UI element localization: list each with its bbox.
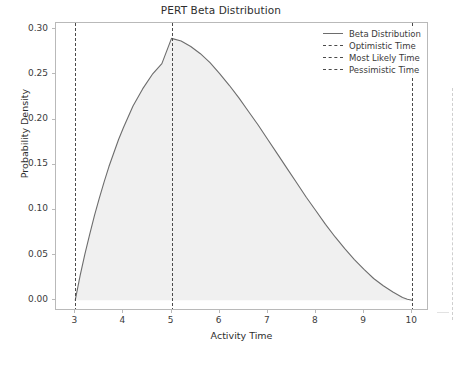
legend-item: Pessimistic Time xyxy=(322,64,426,75)
x-tick-label: 7 xyxy=(247,316,287,325)
x-tick-label: 5 xyxy=(151,316,191,325)
y-tick-label: 0.10 xyxy=(2,204,48,213)
legend-item-label: Pessimistic Time xyxy=(349,65,419,75)
chart-figure: PERT Beta Distribution Probability Densi… xyxy=(0,0,457,367)
x-tick-mark xyxy=(267,310,268,313)
x-tick-mark xyxy=(219,310,220,313)
x-tick-label: 9 xyxy=(343,316,383,325)
x-axis-label: Activity Time xyxy=(55,330,428,341)
y-tick-label: 0.15 xyxy=(2,159,48,168)
x-tick-label: 8 xyxy=(295,316,335,325)
legend-line-icon xyxy=(322,29,344,39)
y-axis-label: Probability Density xyxy=(19,64,30,204)
x-tick-mark xyxy=(363,310,364,313)
legend-line-icon xyxy=(322,65,344,75)
chart-title: PERT Beta Distribution xyxy=(0,4,457,16)
x-tick-label: 4 xyxy=(102,316,142,325)
legend-line-icon xyxy=(322,41,344,51)
legend-item-label: Beta Distribution xyxy=(349,29,421,39)
x-tick-mark xyxy=(171,310,172,313)
legend-item: Most Likely Time xyxy=(322,52,426,63)
legend-item: Optimistic Time xyxy=(322,40,426,51)
legend-item: Beta Distribution xyxy=(322,28,426,39)
right-edge-artifact-tick xyxy=(437,312,449,313)
vline-optimistic-time xyxy=(75,23,76,310)
y-tick-label: 0.00 xyxy=(2,295,48,304)
legend-item-label: Optimistic Time xyxy=(349,41,416,51)
y-tick-label: 0.20 xyxy=(2,114,48,123)
legend-item-label: Most Likely Time xyxy=(349,53,420,63)
chart-title-text: PERT Beta Distribution xyxy=(161,4,281,16)
y-tick-label: 0.30 xyxy=(2,24,48,33)
legend-line-icon xyxy=(322,53,344,63)
x-tick-mark xyxy=(315,310,316,313)
x-tick-mark xyxy=(411,310,412,313)
chart-legend: Beta DistributionOptimistic TimeMost Lik… xyxy=(322,26,426,78)
right-edge-artifact xyxy=(452,88,453,320)
x-tick-label: 10 xyxy=(391,316,431,325)
vline-most-likely-time xyxy=(172,23,173,310)
x-tick-label: 6 xyxy=(199,316,239,325)
y-tick-label: 0.25 xyxy=(2,69,48,78)
x-tick-label: 3 xyxy=(54,316,94,325)
x-tick-mark xyxy=(122,310,123,313)
x-tick-mark xyxy=(74,310,75,313)
y-tick-label: 0.05 xyxy=(2,250,48,259)
